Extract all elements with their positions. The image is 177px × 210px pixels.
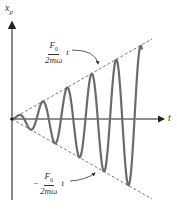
lower-envelope-label: − F0 2mω t bbox=[33, 171, 64, 196]
x-axis-label: t bbox=[168, 112, 171, 123]
oscillation-curve bbox=[12, 46, 142, 186]
origin-dot bbox=[10, 117, 13, 120]
upper-callout-arrow bbox=[72, 50, 98, 64]
y-axis-label: xp bbox=[5, 2, 13, 16]
resonance-diagram bbox=[0, 0, 177, 210]
upper-envelope-label: F0 2mω t bbox=[45, 40, 69, 65]
lower-callout-arrow bbox=[70, 173, 95, 181]
